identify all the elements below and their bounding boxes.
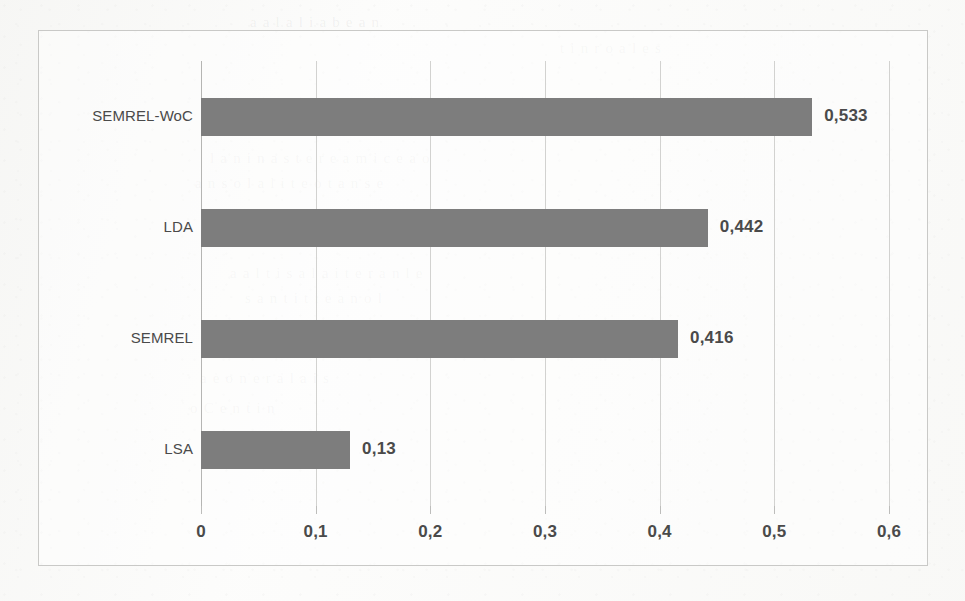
x-tick-mark [430, 506, 431, 514]
x-tick-label: 0,6 [877, 522, 901, 542]
x-tick-label: 0,2 [418, 522, 442, 542]
x-tick-mark [889, 506, 890, 514]
x-tick-mark [316, 506, 317, 514]
x-tick-mark [774, 506, 775, 514]
category-label-semrel: SEMREL [131, 329, 193, 346]
x-tick-label: 0,5 [762, 522, 786, 542]
bar-value-label: 0,416 [690, 328, 734, 348]
x-tick-mark [545, 506, 546, 514]
bar-value-label: 0,13 [362, 439, 396, 459]
x-tick-mark [660, 506, 661, 514]
x-tick-mark [201, 506, 202, 514]
bar-value-label: 0,442 [720, 217, 764, 237]
bar-semrel-woc [201, 98, 812, 136]
category-label-semrel-woc: SEMREL-WoC [92, 107, 193, 124]
x-tick-label: 0,1 [304, 522, 328, 542]
bar-semrel [201, 320, 678, 358]
category-label-lsa: LSA [164, 440, 193, 457]
bar-lda [201, 209, 708, 247]
category-label-lda: LDA [164, 218, 193, 235]
bar-chart-plot-area: 00,10,20,30,40,50,60,533SEMREL-WoC0,442L… [39, 31, 929, 567]
x-tick-label: 0 [196, 522, 206, 542]
bar-lsa [201, 431, 350, 469]
x-gridline [889, 61, 890, 506]
chart-frame: 00,10,20,30,40,50,60,533SEMREL-WoC0,442L… [38, 30, 928, 566]
x-tick-label: 0,4 [648, 522, 672, 542]
x-tick-label: 0,3 [533, 522, 557, 542]
bar-value-label: 0,533 [824, 106, 868, 126]
